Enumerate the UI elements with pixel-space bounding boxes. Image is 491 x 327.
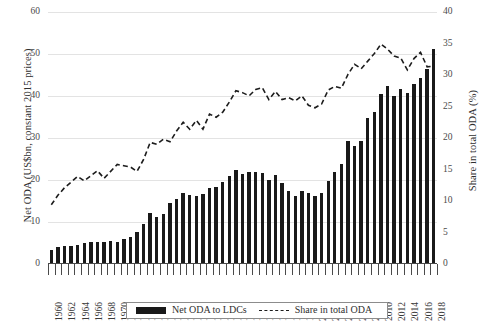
x-tick-label: 2012 — [398, 302, 408, 321]
plot-area — [48, 12, 437, 264]
y-tick-label-left: 20 — [18, 175, 40, 185]
x-tick-mark — [153, 264, 154, 275]
x-tick-mark — [358, 264, 359, 275]
x-tick-mark — [312, 264, 313, 275]
x-tick-mark — [378, 264, 379, 275]
x-tick-label: 1968 — [108, 302, 118, 321]
x-tick-mark — [233, 264, 234, 275]
x-tick-mark — [364, 264, 365, 275]
x-tick-mark — [338, 264, 339, 275]
y-tick-label-right: 15 — [443, 165, 465, 175]
x-tick-label: 2014 — [411, 302, 421, 321]
x-tick-mark — [61, 264, 62, 275]
y-tick-label-left: 50 — [18, 49, 40, 59]
x-tick-mark — [147, 264, 148, 275]
legend-swatch-bar — [136, 307, 166, 314]
x-tick-mark — [107, 264, 108, 275]
x-tick-mark — [88, 264, 89, 275]
x-tick-mark — [173, 264, 174, 275]
x-tick-mark — [219, 264, 220, 275]
x-tick-mark — [292, 264, 293, 275]
x-tick-mark — [200, 264, 201, 275]
legend-label-share: Share in total ODA — [295, 305, 379, 315]
x-tick-mark — [397, 264, 398, 275]
chart-legend: Net ODA to LDCs Share in total ODA — [126, 302, 388, 319]
x-tick-mark — [134, 264, 135, 275]
y-tick-label-left: 60 — [18, 7, 40, 17]
x-tick-mark — [345, 264, 346, 275]
x-tick-mark — [259, 264, 260, 275]
x-tick-mark — [193, 264, 194, 275]
x-tick-mark — [114, 264, 115, 275]
y-tick-label-left: 30 — [18, 133, 40, 143]
x-tick-label: 1962 — [68, 302, 78, 321]
x-tick-label: 2016 — [425, 302, 435, 321]
x-tick-mark — [424, 264, 425, 275]
x-tick-mark — [81, 264, 82, 275]
x-tick-mark — [411, 264, 412, 275]
x-axis-tick-marks — [48, 264, 437, 276]
x-tick-mark — [318, 264, 319, 275]
x-tick-mark — [266, 264, 267, 275]
x-tick-mark — [127, 264, 128, 275]
legend-label-net-oda: Net ODA to LDCs — [172, 305, 253, 315]
x-tick-mark — [285, 264, 286, 275]
x-tick-mark — [213, 264, 214, 275]
y-tick-label-right: 40 — [443, 7, 465, 17]
x-tick-mark — [74, 264, 75, 275]
y-tick-label-left: 40 — [18, 91, 40, 101]
x-tick-mark — [180, 264, 181, 275]
x-tick-mark — [68, 264, 69, 275]
y-tick-label-right: 0 — [443, 259, 465, 269]
x-tick-mark — [430, 264, 431, 275]
y-tick-label-left: 10 — [18, 217, 40, 227]
x-tick-mark — [272, 264, 273, 275]
x-tick-mark — [140, 264, 141, 275]
y-axis-right-title: Share in total ODA (%) — [467, 41, 478, 241]
y-tick-label-right: 25 — [443, 102, 465, 112]
y-tick-label-right: 10 — [443, 196, 465, 206]
y-tick-label-right: 5 — [443, 228, 465, 238]
x-tick-mark — [239, 264, 240, 275]
x-tick-mark — [404, 264, 405, 275]
x-tick-mark — [305, 264, 306, 275]
x-tick-mark — [48, 264, 49, 275]
line-series-share-in-total-oda — [48, 12, 437, 264]
x-tick-mark — [252, 264, 253, 275]
x-tick-mark — [391, 264, 392, 275]
x-tick-mark — [417, 264, 418, 275]
x-tick-mark — [371, 264, 372, 275]
x-tick-label: 1966 — [95, 302, 105, 321]
x-tick-mark — [167, 264, 168, 275]
x-tick-mark — [55, 264, 56, 275]
x-tick-mark — [351, 264, 352, 275]
x-tick-mark — [206, 264, 207, 275]
y-tick-label-left: 0 — [18, 259, 40, 269]
y-tick-label-right: 20 — [443, 133, 465, 143]
x-tick-mark — [121, 264, 122, 275]
y-tick-label-right: 30 — [443, 70, 465, 80]
x-tick-mark — [437, 264, 438, 275]
x-tick-mark — [226, 264, 227, 275]
x-tick-mark — [299, 264, 300, 275]
x-tick-mark — [186, 264, 187, 275]
chart-figure: Net ODA (US$bn, constant 2015 prices) Sh… — [0, 0, 491, 327]
x-tick-mark — [279, 264, 280, 275]
x-tick-label: 1964 — [82, 302, 92, 321]
x-tick-mark — [332, 264, 333, 275]
x-tick-mark — [384, 264, 385, 275]
x-tick-mark — [94, 264, 95, 275]
x-tick-label: 2018 — [438, 302, 448, 321]
y-tick-label-right: 35 — [443, 39, 465, 49]
x-tick-mark — [160, 264, 161, 275]
x-axis-labels: 1960196219641966196819701972197419761978… — [48, 276, 437, 304]
x-tick-label: 1960 — [55, 302, 65, 321]
x-tick-mark — [246, 264, 247, 275]
x-tick-mark — [101, 264, 102, 275]
x-tick-mark — [325, 264, 326, 275]
legend-swatch-dashed-line — [259, 306, 289, 315]
